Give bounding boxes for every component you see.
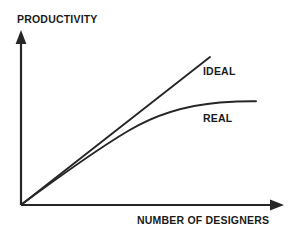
y-axis-label: PRODUCTIVITY — [17, 13, 98, 25]
ideal-series-label: IDEAL — [203, 65, 236, 77]
real-series-label: REAL — [203, 112, 233, 124]
chart-figure: PRODUCTIVITY NUMBER OF DESIGNERS IDEAL R… — [0, 0, 297, 236]
x-axis-label: NUMBER OF DESIGNERS — [137, 214, 269, 226]
chart-canvas: PRODUCTIVITY NUMBER OF DESIGNERS IDEAL R… — [0, 0, 297, 236]
x-axis-arrow-icon — [270, 200, 284, 211]
ideal-curve — [22, 57, 211, 205]
y-axis-arrow-icon — [16, 30, 27, 44]
